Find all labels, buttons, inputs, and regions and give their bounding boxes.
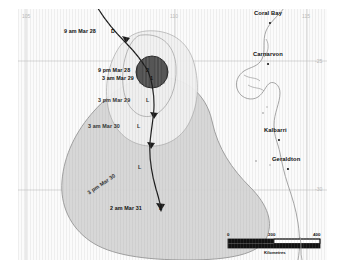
track-intensity-9pm-mar28: 2 [146, 67, 149, 73]
map-canvas [18, 9, 327, 260]
scale-tick-400: 400 [313, 232, 320, 237]
city-label-coral-bay: Coral Bay [254, 10, 282, 16]
track-intensity-3am-mar29: 1 [150, 75, 153, 81]
scale-bar-graphic [228, 239, 320, 248]
city-label-kalbarri: Kalbarri [264, 127, 287, 133]
track-label-9am-mar28: 9 am Mar 28 [64, 28, 96, 34]
city-dots [267, 22, 289, 170]
cyclone-track-map: 105 110 115 -25 -30 Coral Bay Carnarvon … [0, 0, 345, 269]
track-intensity-3am-mar30: L [137, 123, 140, 129]
latitude-label-25: -25 [315, 58, 322, 64]
island-dots [255, 106, 271, 166]
track-label-2am-mar31: 2 am Mar 31 [110, 205, 142, 211]
track-intensity-3pm-mar30: L [138, 164, 141, 170]
track-label-3am-mar29: 3 am Mar 29 [102, 75, 134, 81]
city-label-carnarvon: Carnarvon [253, 51, 283, 57]
track-label-3am-mar30: 3 am Mar 30 [88, 123, 120, 129]
city-label-geraldton: Geraldton [272, 156, 300, 162]
scale-tick-0: 0 [227, 232, 229, 237]
longitude-label-110: 110 [170, 13, 178, 19]
track-intensity-9am-mar28: D [111, 28, 115, 34]
latitude-label-30: -30 [315, 186, 322, 192]
track-label-9pm-mar28: 9 pm Mar 28 [98, 67, 130, 73]
map-plate [18, 9, 327, 260]
longitude-label-115: 115 [302, 13, 310, 19]
track-intensity-2am-mar31: L [159, 205, 162, 211]
track-intensity-3pm-mar29: L [146, 97, 149, 103]
scale-tick-200: 200 [268, 232, 275, 237]
scale-unit-label: Kilometres [264, 250, 286, 255]
track-label-3pm-mar29: 3 pm Mar 29 [98, 97, 130, 103]
longitude-label-105: 105 [22, 13, 30, 19]
